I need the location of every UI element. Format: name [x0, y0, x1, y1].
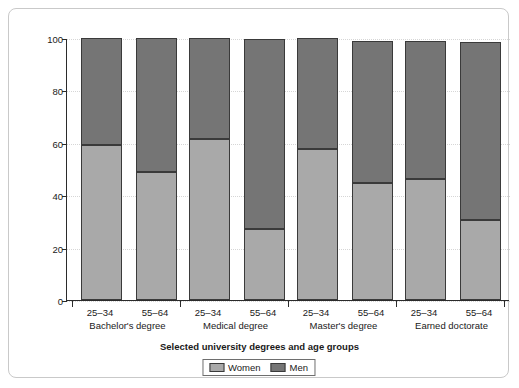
x-axis-tick-mark	[288, 301, 289, 307]
bar-segment-women	[460, 220, 501, 300]
x-axis-tick-mark	[504, 301, 505, 307]
stacked-bar	[81, 38, 122, 300]
y-axis-tick-mark	[62, 144, 67, 145]
bar-segment-men	[352, 41, 393, 184]
bar-segment-women	[244, 229, 285, 300]
chart-legend: WomenMen	[202, 359, 315, 376]
x-axis-category-label: 55–64	[250, 307, 276, 318]
x-axis-category-label: 55–64	[358, 307, 384, 318]
bar-segment-men	[81, 38, 122, 145]
x-axis-category-label: 55–64	[466, 307, 492, 318]
x-axis-category-label: 55–64	[142, 307, 168, 318]
x-axis-group-label: Bachelor's degree	[89, 320, 165, 331]
plot-frame: 020406080100	[66, 39, 509, 301]
legend-item: Men	[271, 362, 308, 373]
x-axis-group-label: Medical degree	[203, 320, 268, 331]
bar-segment-men	[136, 38, 177, 172]
x-axis-category-label: 25–34	[195, 307, 221, 318]
bar-segment-women	[189, 139, 230, 300]
y-axis-tick-mark	[62, 91, 67, 92]
stacked-bar	[244, 38, 285, 300]
bar-segment-women	[136, 172, 177, 300]
bar-segment-men	[460, 42, 501, 220]
stacked-bar	[405, 38, 446, 300]
bar-segment-men	[297, 38, 338, 149]
x-axis-group-label: Master's degree	[310, 320, 378, 331]
x-axis-title: Selected university degrees and age grou…	[9, 341, 510, 352]
x-axis-tick-mark	[72, 301, 73, 307]
y-axis-tick-mark	[62, 249, 67, 250]
x-axis-category-label: 25–34	[87, 307, 113, 318]
y-axis-tick-label: 100	[47, 34, 63, 45]
legend-swatch-women	[209, 363, 224, 372]
bar-segment-women	[405, 179, 446, 300]
x-axis-category-label: 25–34	[303, 307, 329, 318]
y-axis-tick-mark	[62, 196, 67, 197]
stacked-bar	[460, 38, 501, 300]
plot-area: Percentage 020406080100	[66, 31, 509, 301]
x-axis-category-label: 25–34	[411, 307, 437, 318]
legend-label: Men	[290, 362, 308, 373]
stacked-bar	[189, 38, 230, 300]
stacked-bar	[297, 38, 338, 300]
bar-segment-men	[189, 38, 230, 139]
x-axis-group-label: Earned doctorate	[415, 320, 488, 331]
bar-segment-women	[352, 183, 393, 300]
legend-label: Women	[228, 362, 261, 373]
y-axis-tick-mark	[62, 39, 67, 40]
legend-swatch-men	[271, 363, 286, 372]
legend-item: Women	[209, 362, 261, 373]
stacked-bar	[136, 38, 177, 300]
chart-card: Percentage 020406080100 25–3455–6425–345…	[8, 8, 509, 378]
stacked-bar	[352, 38, 393, 300]
bar-segment-men	[244, 39, 285, 229]
bar-segment-women	[81, 145, 122, 300]
x-axis-tick-mark	[396, 301, 397, 307]
bar-segment-women	[297, 149, 338, 300]
x-axis-tick-mark	[180, 301, 181, 307]
bar-segment-men	[405, 41, 446, 180]
